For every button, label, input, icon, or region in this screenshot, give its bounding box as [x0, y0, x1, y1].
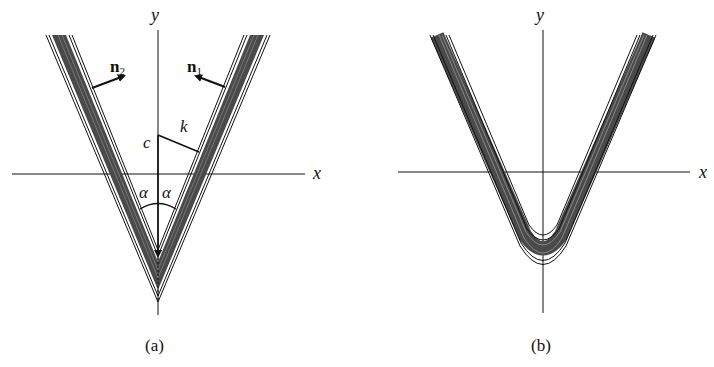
k-segment	[158, 135, 199, 152]
c-label: c	[143, 134, 151, 151]
left-contour-band-a	[46, 35, 158, 302]
k-label: k	[180, 118, 188, 135]
alpha-right-label: α	[162, 184, 171, 201]
x-axis-label-b: x	[699, 163, 707, 181]
n1-subscript: 1	[196, 65, 202, 77]
panel-a	[12, 30, 305, 315]
x-axis-label-a: x	[313, 164, 321, 182]
caption-b: (b)	[531, 337, 551, 354]
panel-b	[398, 30, 690, 313]
caption-a: (a)	[145, 337, 164, 354]
n2-arrow	[92, 76, 124, 88]
right-contour-band-a	[158, 35, 270, 302]
y-axis-label-a: y	[151, 6, 159, 24]
n2-label: n2	[110, 58, 125, 77]
n2-subscript: 2	[119, 65, 125, 77]
figure-canvas	[0, 0, 714, 367]
y-axis-label-b: y	[536, 6, 544, 24]
alpha-left-label: α	[139, 184, 148, 201]
n1-arrow	[196, 76, 225, 87]
n1-label: n1	[187, 58, 202, 77]
